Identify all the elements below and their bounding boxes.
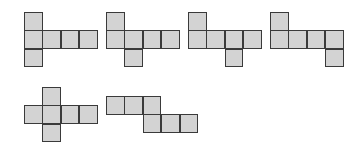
net-square (42, 30, 61, 49)
net-square (42, 105, 61, 124)
net-square (288, 30, 307, 49)
net-square (42, 124, 61, 143)
net-square (270, 12, 289, 31)
net-square (180, 114, 199, 133)
net-square (124, 30, 143, 49)
net-square (143, 114, 162, 133)
net-square (243, 30, 262, 49)
net-square (42, 87, 61, 106)
net-square (143, 30, 162, 49)
net-square (79, 105, 98, 124)
net-square (24, 30, 43, 49)
net-square (24, 49, 43, 68)
net-square (161, 114, 180, 133)
net-square (325, 30, 344, 49)
net-square (124, 49, 143, 68)
net-square (225, 30, 244, 49)
net-square (124, 96, 143, 115)
net-square (24, 12, 43, 31)
net-square (61, 105, 80, 124)
net-square (143, 96, 162, 115)
net-square (106, 30, 125, 49)
net-square (106, 12, 125, 31)
net-square (188, 30, 207, 49)
net-square (206, 30, 225, 49)
net-square (188, 12, 207, 31)
net-square (307, 30, 326, 49)
net-square (325, 49, 344, 68)
net-square (79, 30, 98, 49)
net-square (61, 30, 80, 49)
net-square (225, 49, 244, 68)
net-square (106, 96, 125, 115)
net-square (161, 30, 180, 49)
net-square (270, 30, 289, 49)
net-square (24, 105, 43, 124)
